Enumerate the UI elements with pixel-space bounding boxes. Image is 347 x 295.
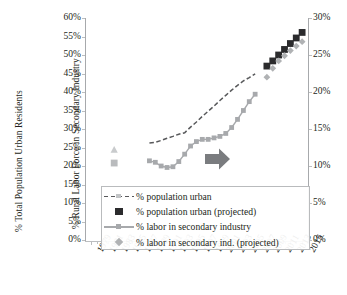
y-tick-label-right: 15% <box>313 123 330 133</box>
y-tick-label-right: 25% <box>313 49 330 59</box>
square-marker-icon <box>116 194 121 199</box>
legend-label: % population urban (projected) <box>136 206 256 217</box>
y-tick-label-left: 55% <box>48 31 81 41</box>
y-tick-label-right: 30% <box>313 12 330 22</box>
y-tick-label-left: 20% <box>48 160 81 170</box>
y-tick-label-left: 45% <box>48 68 81 78</box>
y-tick-label-right: 5% <box>313 197 326 207</box>
y-tick-label-left: 0% <box>48 234 81 244</box>
x-tick <box>91 241 92 245</box>
y-tick-right <box>309 129 312 130</box>
legend-marker-filled-square <box>102 204 136 219</box>
legend-item[interactable]: % labor in secondary industry <box>102 219 309 234</box>
legend-item[interactable]: % population urban (projected) <box>102 204 309 219</box>
trend-arrow-icon <box>205 148 231 170</box>
chart-legend: % population urban% population urban (pr… <box>101 186 310 250</box>
y-tick-label-left: 50% <box>48 49 81 59</box>
series-early-marker-square <box>111 160 118 167</box>
legend-marker-dashed-line <box>102 189 136 204</box>
legend-marker-diamond <box>102 235 136 250</box>
diamond-marker-icon <box>114 237 122 245</box>
y-tick-label-right: 20% <box>313 86 330 96</box>
y-tick-label-right: 10% <box>313 160 330 170</box>
y-tick-label-left: 5% <box>48 216 81 226</box>
square-marker-icon <box>116 224 121 229</box>
y-tick-right <box>309 166 312 167</box>
legend-label: % population urban <box>136 191 212 202</box>
y-tick-label-left: 60% <box>48 12 81 22</box>
y-tick-label-left: 10% <box>48 197 81 207</box>
y-tick-label-left: 15% <box>48 179 81 189</box>
legend-label: % labor in secondary ind. (projected) <box>136 237 279 248</box>
series-early-marker-triangle <box>111 146 118 153</box>
legend-item[interactable]: % population urban <box>102 189 309 204</box>
y-tick-right <box>309 18 312 19</box>
y-tick-label-left: 40% <box>48 86 81 96</box>
y-tick-right <box>309 92 312 93</box>
series--population-urban-projected- <box>263 29 305 69</box>
legend-label: % labor in secondary industry <box>136 221 251 232</box>
legend-item[interactable]: % labor in secondary ind. (projected) <box>102 235 309 250</box>
series--population-urban <box>149 74 255 143</box>
y-tick-label-left: 35% <box>48 105 81 115</box>
chart-container: % Total Population Urban Residents % Rur… <box>0 0 347 295</box>
series--labor-in-secondary-industry <box>147 92 258 170</box>
y-tick-label-left: 30% <box>48 123 81 133</box>
y-tick-right <box>309 55 312 56</box>
y-axis-title-left: % Total Population Urban Residents <box>14 90 24 232</box>
legend-marker-line-with-square <box>102 219 136 234</box>
y-tick-label-left: 25% <box>48 142 81 152</box>
filled-square-icon <box>115 208 123 216</box>
